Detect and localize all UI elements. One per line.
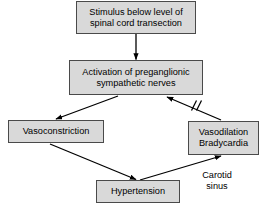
node-stimulus-below-level: Stimulus below level of spinal cord tran…: [76, 1, 196, 34]
node-hypertension-label: Hypertension: [109, 186, 167, 197]
edge-vasoconstriction-to-hypertension: [50, 144, 136, 180]
node-vasodilation-bradycardia: Vasodilation Bradycardia: [188, 121, 259, 155]
node-stimulus-label: Stimulus below level of spinal cord tran…: [87, 7, 184, 29]
edge-vasodilation-to-activation: [167, 97, 221, 120]
diagram-canvas: Stimulus below level of spinal cord tran…: [0, 0, 263, 210]
node-vasoconstriction-label: Vasoconstriction: [21, 126, 92, 137]
node-vasodilation-label: Vasodilation Bradycardia: [197, 127, 250, 149]
node-vasoconstriction: Vasoconstriction: [8, 120, 104, 143]
node-hypertension: Hypertension: [96, 180, 180, 203]
edge-activation-to-vasoconstriction: [56, 96, 118, 119]
annotation-carotid-sinus: Carotid sinus: [186, 170, 248, 192]
node-activation-label: Activation of preganglionic sympathetic …: [80, 67, 191, 89]
node-activation-preganglionic: Activation of preganglionic sympathetic …: [69, 60, 203, 95]
